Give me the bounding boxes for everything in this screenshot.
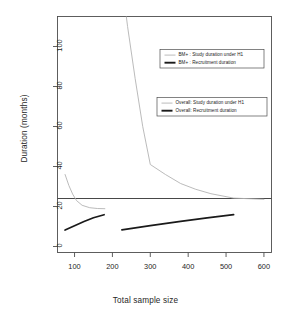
legend-entry-label: Overall: Recruitment duration [176,108,237,113]
y-tick-label-80: 80 [55,81,64,89]
y-axis-title: Duration (months) [20,49,29,209]
plot-canvas [0,0,291,320]
legend-entry-label: BM+ : Study duration under H1 [179,52,244,57]
x-tick-label-400: 400 [182,262,194,271]
x-tick-label-600: 600 [258,262,270,271]
x-tick-label-100: 100 [68,262,80,271]
x-tick-label-500: 500 [220,262,232,271]
x-tick-label-200: 200 [106,262,118,271]
chart-figure: Total sample size Duration (months) 1002… [0,0,291,320]
y-tick-label-40: 40 [55,161,64,169]
x-axis-title: Total sample size [0,296,291,305]
y-tick-label-0: 0 [55,243,64,247]
y-tick-label-60: 60 [55,121,64,129]
y-tick-label-20: 20 [55,201,64,209]
y-tick-label-100: 100 [55,39,64,51]
legend-entry-label: Overall: Study duration under H1 [176,100,245,105]
x-tick-label-300: 300 [144,262,156,271]
legend-entry-label: BM+ : Recruitment duration [179,60,236,65]
